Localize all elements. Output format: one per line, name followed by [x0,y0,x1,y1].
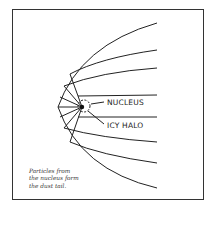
caption: Particles from the nucleus form the dust… [29,168,79,190]
tail-line [64,128,157,142]
caption-line: the nucleus form [29,175,79,182]
caption-line: Particles from [29,168,79,175]
tail-line [70,142,157,163]
caption-line: the dust tail. [29,183,79,190]
nucleus-label: NUCLEUS [107,98,144,107]
nucleus [80,105,84,109]
tail-line [78,95,157,96]
icy-halo-label: ICY HALO [107,121,143,130]
tail-line [70,50,157,74]
